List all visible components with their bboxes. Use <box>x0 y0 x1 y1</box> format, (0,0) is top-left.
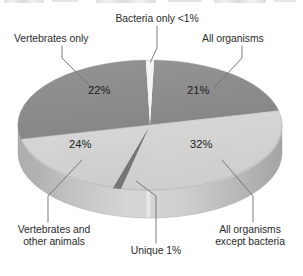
label-vertebrates-and-animals: Vertebrates and other animals <box>2 224 106 247</box>
percent-all-organisms: 21% <box>187 84 209 96</box>
label-bacteria-only: Bacteria only <1% <box>92 13 222 25</box>
label-all-except-bacteria-line1: All organisms <box>198 224 302 236</box>
leader-line-bacteria-only <box>151 26 158 62</box>
pie-top-face <box>18 60 283 191</box>
label-vertebrates-and-animals-line2: other animals <box>2 236 106 248</box>
label-vertebrates-only-text: Vertebrates only <box>14 33 88 44</box>
label-all-organisms: All organisms <box>202 33 264 45</box>
label-vertebrates-and-animals-line1: Vertebrates and <box>2 224 106 236</box>
percent-vertebrates-and-animals: 24% <box>69 138 91 150</box>
scan-artifact-strip <box>4 0 296 3</box>
label-all-organisms-text: All organisms <box>202 33 264 44</box>
label-bacteria-only-text: Bacteria only <1% <box>115 13 198 24</box>
label-all-except-bacteria-line2: except bacteria <box>198 236 302 248</box>
percent-vertebrates-only: 22% <box>88 84 110 96</box>
label-unique-text: Unique 1% <box>131 245 181 256</box>
percent-all-except-bacteria: 32% <box>190 138 212 150</box>
label-vertebrates-only: Vertebrates only <box>14 33 88 45</box>
label-unique: Unique 1% <box>112 245 200 257</box>
label-all-except-bacteria: All organisms except bacteria <box>198 224 302 247</box>
